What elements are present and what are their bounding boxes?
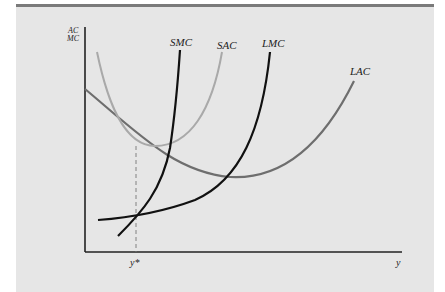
x-axis-label: y bbox=[395, 257, 401, 268]
y-axis-label-mc: MC bbox=[66, 34, 80, 43]
lmc-label: LMC bbox=[261, 37, 285, 49]
smc-label: SMC bbox=[170, 36, 193, 48]
cost-curves-diagram: AC MC SMC SAC LMC LAC y* y bbox=[0, 0, 445, 292]
y-star-label: y* bbox=[129, 257, 139, 268]
lac-label: LAC bbox=[349, 65, 371, 77]
sac-label: SAC bbox=[217, 39, 237, 51]
sac-curve bbox=[97, 52, 222, 146]
